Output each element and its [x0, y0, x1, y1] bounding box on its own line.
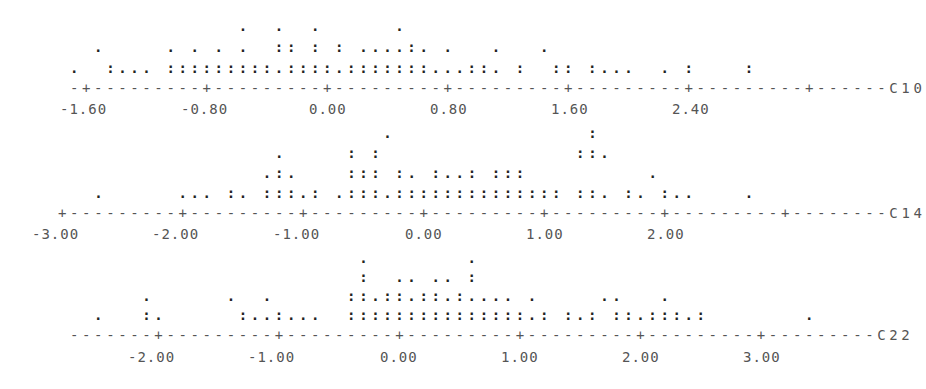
- c10-tick-label: 0.80: [430, 101, 468, 117]
- c22-dots-row-2: . . . ::.::.::.:.... . .. .: [70, 288, 672, 304]
- c10-axis-line: -+---------+---------+---------+--------…: [70, 80, 925, 96]
- c22-dots-row-3: : .. .. :: [70, 269, 480, 285]
- c14-tick-label: -1.00: [273, 226, 320, 242]
- c10-tick-label: 2.40: [672, 101, 710, 117]
- c14-dots-row-3: . : : ::.: [58, 145, 612, 161]
- c14-tick-label: -2.00: [152, 226, 199, 242]
- c10-dots-row-2: . . . . . :: : : ....:. . . .: [70, 39, 552, 55]
- c10-dots-row-3: . . . .: [70, 18, 407, 34]
- c14-tick-label: 1.00: [526, 226, 564, 242]
- c22-tick-label: -2.00: [128, 349, 175, 365]
- c22-tick-label: 2.00: [622, 349, 660, 365]
- c22-tick-label: -1.00: [248, 349, 295, 365]
- c10-dots-row-1: . :... :::::::::.::::.:::::::...::. : ::…: [70, 60, 757, 76]
- c22-axis-line: -------+---------+---------+---------+--…: [70, 327, 913, 343]
- c22-tick-label: 1.00: [501, 349, 539, 365]
- c14-dots-row-4: . :: [58, 125, 600, 141]
- c10-tick-label: -1.60: [60, 101, 107, 117]
- c14-tick-label: 2.00: [647, 226, 685, 242]
- c22-tick-label: 0.00: [380, 349, 418, 365]
- c14-dots-row-1: . ... :. :::.: .:::.:::::::::::::: ::. :…: [58, 185, 757, 201]
- c22-dots-row-1: . :. :..:... :::::::::::::::.: :.: ::.::…: [70, 307, 817, 323]
- c22-dots-row-4: . .: [70, 250, 480, 266]
- c10-tick-label: 0.00: [309, 101, 347, 117]
- c14-tick-label: -3.00: [32, 226, 79, 242]
- c22-tick-label: 3.00: [743, 349, 781, 365]
- c10-tick-label: -0.80: [181, 101, 228, 117]
- c14-axis-line: +---------+---------+---------+---------…: [58, 205, 926, 221]
- c14-tick-label: 0.00: [405, 226, 443, 242]
- c14-dots-row-2: .:. ::: :. :..: ::: .: [58, 165, 660, 181]
- c10-tick-label: 1.60: [551, 101, 589, 117]
